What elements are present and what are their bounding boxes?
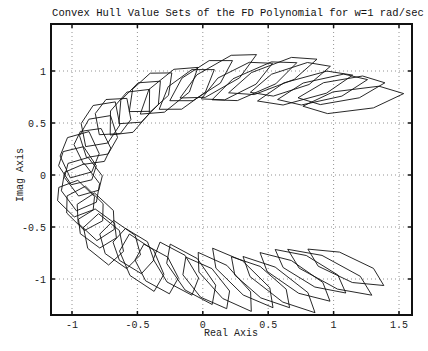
- value-set-polygon: [120, 234, 164, 291]
- y-axis-label: Imag Axis: [15, 148, 26, 202]
- value-set-polygon: [153, 242, 198, 295]
- x-tick-label: -1: [66, 320, 78, 331]
- value-set-polygon: [81, 102, 120, 147]
- x-tick-label: -0.5: [125, 320, 149, 331]
- y-tick-label: 0.5: [28, 119, 46, 130]
- value-set-polygons: [58, 55, 404, 313]
- value-set-polygon: [180, 55, 257, 98]
- value-set-polygon: [58, 180, 95, 217]
- x-tick-label: 0.5: [259, 320, 277, 331]
- value-set-polygon: [84, 214, 124, 265]
- chart-figure: Convex Hull Value Sets of the FD Polynom…: [0, 0, 428, 351]
- x-tick-label: 1: [331, 320, 337, 331]
- y-tick-label: 1: [40, 67, 46, 78]
- axis-ticks: -1-0.500.511.5-1-0.500.51: [22, 24, 412, 331]
- grid-lines: [51, 24, 412, 315]
- value-set-polygon: [167, 244, 216, 304]
- value-set-polygon: [288, 249, 372, 295]
- x-tick-label: 1.5: [390, 320, 408, 331]
- value-set-polygon: [129, 73, 172, 112]
- value-set-polygon: [275, 250, 346, 294]
- value-set-polygon: [119, 81, 160, 124]
- y-tick-label: 0: [40, 171, 46, 182]
- axes-frame: [51, 24, 412, 315]
- value-set-polygon: [298, 76, 385, 105]
- y-tick-label: -0.5: [22, 223, 46, 234]
- chart-title: Convex Hull Value Sets of the FD Polynom…: [52, 7, 424, 19]
- value-set-polygon: [303, 86, 404, 113]
- x-axis-label: Real Axis: [204, 328, 258, 339]
- y-tick-label: -1: [34, 275, 46, 286]
